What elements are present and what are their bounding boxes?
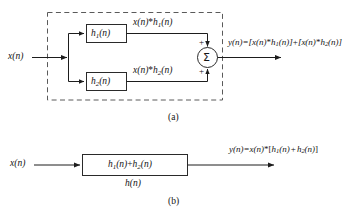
input-label-a: x(n) xyxy=(8,52,23,62)
filter-block-h1-label: h1(n) xyxy=(91,29,110,39)
wire-h1-to-summer xyxy=(127,34,208,47)
h1-arg: (n) xyxy=(99,28,110,38)
out-b-h1-arg: (n) xyxy=(279,144,290,154)
summer-plus-top: + xyxy=(199,38,204,47)
branch-bottom-signal-label: x(n)*h2(n) xyxy=(133,66,172,76)
branch-top-h-arg: (n) xyxy=(161,17,172,27)
combined-filter-block-label: h1(n)+h2(n) xyxy=(108,160,152,170)
summer-plus-bottom: + xyxy=(199,67,204,76)
out-a-lhs: y(n)= xyxy=(228,37,249,47)
branch-bottom-lhs: x(n) xyxy=(133,65,148,75)
out-a-t1-close: (n)] xyxy=(279,37,293,47)
out-b-close: ] xyxy=(315,144,318,154)
branch-bottom-h-arg: (n) xyxy=(161,65,172,75)
panel-caption-b: (b) xyxy=(168,197,179,207)
b-h1-arg: (n) xyxy=(116,159,127,169)
out-a-t1-open: [x(n) xyxy=(249,37,267,47)
out-b-plus: + xyxy=(290,144,297,154)
panel-caption-a: (a) xyxy=(168,113,179,123)
input-label-b: x(n) xyxy=(10,159,25,169)
block-diagram-vector xyxy=(0,0,362,218)
sigma-icon: Σ xyxy=(203,52,210,63)
out-a-t2-close: (n)] xyxy=(328,37,342,47)
out-b-lhs: y(n)=x(n) xyxy=(229,144,264,154)
branch-top-lhs: x(n) xyxy=(133,17,148,27)
combined-filter-under-label: h(n) xyxy=(125,179,141,189)
output-equation-a: y(n)=[x(n)*h1(n)]+[x(n)*h2(n)] xyxy=(228,38,342,48)
out-a-t2-open: [x(n) xyxy=(298,37,316,47)
output-equation-b: y(n)=x(n)*[h1(n)+h2(n)] xyxy=(229,145,318,155)
input-label-a-arg: (n) xyxy=(12,51,23,61)
filter-block-h2-label: h2(n) xyxy=(91,77,110,87)
h2-arg: (n) xyxy=(99,76,110,86)
input-label-b-arg: (n) xyxy=(14,158,25,168)
b-h-arg: (n) xyxy=(130,178,141,188)
branch-top-signal-label: x(n)*h1(n) xyxy=(133,18,172,28)
b-h2-arg: (n) xyxy=(141,159,152,169)
figure-canvas: x(n) h1(n) h2(n) x(n)*h1(n) x(n)*h2(n) +… xyxy=(0,0,362,218)
out-b-h2-arg: (n) xyxy=(305,144,316,154)
